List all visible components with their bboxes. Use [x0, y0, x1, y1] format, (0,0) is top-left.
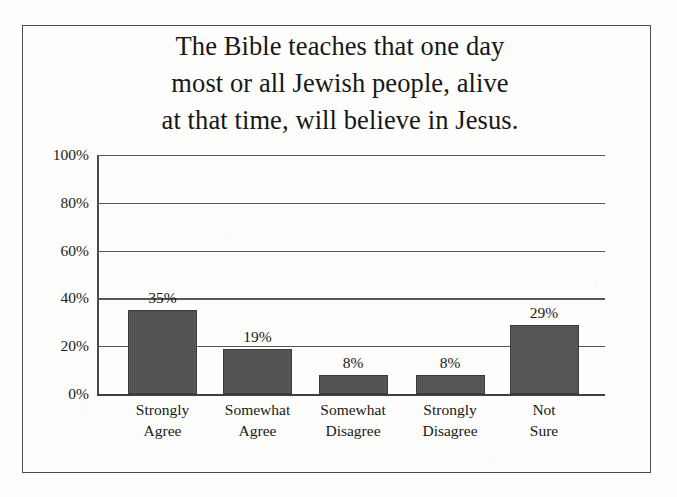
- y-tick-label-80: 80%: [61, 194, 89, 212]
- chart-title-line-1: The Bible teaches that one day: [60, 28, 620, 65]
- x-category-label: SomewhatDisagree: [303, 399, 403, 441]
- bar-slot: 8%: [416, 155, 485, 394]
- plot-area: 0%20%40%60%80%100% 35%19%8%8%29%: [97, 155, 605, 394]
- x-axis-category-labels: StronglyAgreeSomewhatAgreeSomewhatDisagr…: [97, 399, 605, 455]
- chart-title-line-2: most or all Jewish people, alive: [60, 65, 620, 102]
- x-category-label-line: Agree: [208, 420, 308, 441]
- bar-slot: 35%: [128, 155, 197, 394]
- x-category-label: SomewhatAgree: [208, 399, 308, 441]
- bar[interactable]: [223, 349, 292, 394]
- x-category-label: StronglyAgree: [113, 399, 213, 441]
- x-category-label-line: Strongly: [400, 399, 500, 420]
- bar-slot: 29%: [510, 155, 579, 394]
- x-category-label-line: Agree: [113, 420, 213, 441]
- x-category-label: StronglyDisagree: [400, 399, 500, 441]
- x-category-label: NotSure: [494, 399, 594, 441]
- y-tick-label-20: 20%: [61, 337, 89, 355]
- gridline-0: [97, 394, 605, 396]
- bar[interactable]: [510, 325, 579, 394]
- bar-slot: 19%: [223, 155, 292, 394]
- bar-series: 35%19%8%8%29%: [97, 155, 605, 394]
- y-tick-label-0: 0%: [68, 385, 89, 403]
- chart-title-line-3: at that time, will believe in Jesus.: [60, 102, 620, 139]
- bar-value-label: 29%: [530, 304, 558, 322]
- x-category-label-line: Somewhat: [303, 399, 403, 420]
- x-category-label-line: Disagree: [303, 420, 403, 441]
- x-category-label-line: Disagree: [400, 420, 500, 441]
- x-category-label-line: Strongly: [113, 399, 213, 420]
- x-category-label-line: Sure: [494, 420, 594, 441]
- x-category-label-line: Somewhat: [208, 399, 308, 420]
- bar[interactable]: [416, 375, 485, 394]
- x-category-label-line: Not: [494, 399, 594, 420]
- chart-title: The Bible teaches that one day most or a…: [60, 28, 620, 139]
- y-tick-label-100: 100%: [53, 146, 89, 164]
- bar[interactable]: [128, 310, 197, 394]
- bar-value-label: 19%: [243, 328, 271, 346]
- bar-value-label: 8%: [440, 354, 461, 372]
- bar[interactable]: [319, 375, 388, 394]
- y-tick-label-40: 40%: [61, 289, 89, 307]
- y-tick-label-60: 60%: [61, 242, 89, 260]
- bar-value-label: 8%: [343, 354, 364, 372]
- bar-slot: 8%: [319, 155, 388, 394]
- bar-value-label: 35%: [148, 289, 176, 307]
